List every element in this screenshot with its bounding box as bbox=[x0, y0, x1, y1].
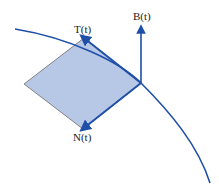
normal-label: N(t) bbox=[73, 131, 91, 143]
tnb-frame-diagram: T(t) B(t) N(t) bbox=[0, 0, 219, 185]
tangent-label: T(t) bbox=[74, 23, 91, 35]
osculating-plane bbox=[24, 38, 141, 129]
diagram-canvas bbox=[0, 0, 219, 185]
binormal-label: B(t) bbox=[133, 10, 151, 22]
